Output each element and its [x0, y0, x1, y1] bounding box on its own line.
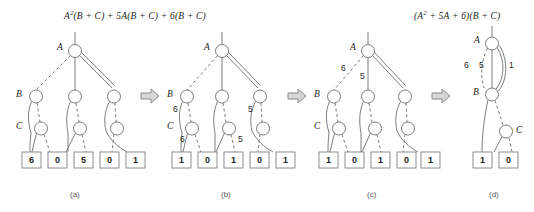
panel-a-terminal-1: 0	[49, 155, 67, 165]
panel-d-level-label-B: B	[473, 87, 479, 97]
panel-c-terminal-3: 0	[398, 155, 416, 165]
panel-a-terminal-2: 5	[75, 155, 93, 165]
arrow-c-to-d	[432, 89, 450, 103]
panel-b-edge-label-0: 6	[173, 104, 178, 114]
panel-c-level-label-C: C	[314, 121, 320, 131]
panel-d-level-label-C: C	[516, 125, 522, 135]
panel-a-graph	[22, 32, 145, 168]
panel-a-terminal-3: 0	[101, 155, 119, 165]
panel-c-graph	[319, 32, 440, 168]
panel-c-level-label-B: B	[314, 89, 320, 99]
panel-d-edge-label-2: 1	[509, 60, 514, 70]
panel-c-edge-label-1: 5	[360, 71, 365, 81]
arrow-a-to-b	[141, 89, 159, 103]
panel-d-edge-label-1: 5	[479, 60, 484, 70]
figure-bdd-factoring: A2(B + C) + 5A(B + C) + 6(B + C) (A2 + 5…	[0, 0, 534, 212]
panel-b-level-label-B: B	[167, 89, 173, 99]
title-a-rest: (B + C) + 5A(B + C) + 6(B + C)	[73, 11, 206, 21]
panel-b-edge-label-3: 5	[238, 134, 243, 144]
title-expression-d: (A2 + 5A + 6)(B + C)	[414, 9, 500, 21]
panel-b-terminal-2: 1	[225, 155, 243, 165]
panel-a-terminal-0: 6	[23, 155, 41, 165]
panel-caption-c: (c)	[367, 190, 376, 199]
panel-b-graph	[172, 32, 295, 168]
panel-b-edge-label-1: 5	[248, 104, 253, 114]
panel-caption-d: (d)	[489, 190, 499, 199]
panel-c-terminal-4: 1	[422, 155, 440, 165]
panel-c-terminal-1: 0	[346, 155, 364, 165]
panel-a-level-label-C: C	[16, 121, 22, 131]
panel-c-terminal-0: 1	[320, 155, 338, 165]
panel-c-level-label-A: A	[350, 42, 356, 52]
panel-a-terminal-4: 1	[127, 155, 145, 165]
panel-caption-a: (a)	[70, 190, 80, 199]
title-expression-a: A2(B + C) + 5A(B + C) + 6(B + C)	[64, 9, 206, 21]
panel-b-terminal-0: 1	[173, 155, 191, 165]
arrow-b-to-c	[288, 89, 306, 103]
panel-a-level-label-B: B	[16, 89, 22, 99]
panel-d-terminal-0: 1	[474, 155, 492, 165]
panel-c-terminal-2: 1	[372, 155, 390, 165]
panel-b-level-label-C: C	[167, 121, 173, 131]
title-d-rest: + 5A + 6)(B + C)	[427, 11, 501, 21]
figure-canvas	[0, 0, 534, 212]
panel-b-terminal-1: 0	[199, 155, 217, 165]
panel-b-edge-label-2: 6	[180, 134, 185, 144]
panel-d-edge-label-0: 6	[464, 60, 469, 70]
panel-d-level-label-A: A	[474, 35, 480, 45]
panel-b-level-label-A: A	[204, 42, 210, 52]
panel-d-graph	[473, 26, 518, 168]
panel-caption-b: (b)	[221, 190, 231, 199]
panel-a-level-label-A: A	[57, 42, 63, 52]
title-d-var: (A	[414, 11, 423, 21]
panel-d-terminal-1: 0	[500, 155, 518, 165]
panel-c-edge-label-0: 6	[341, 63, 346, 73]
panel-b-terminal-4: 1	[277, 155, 295, 165]
panel-b-terminal-3: 0	[251, 155, 269, 165]
